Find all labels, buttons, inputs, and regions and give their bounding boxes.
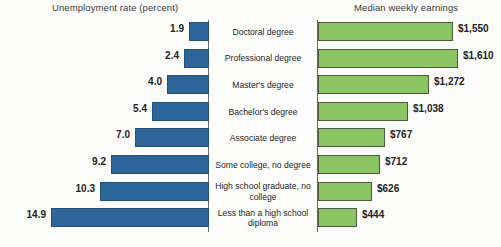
earnings-value-label: $1,550 (458, 23, 489, 34)
unemployment-bar (167, 75, 209, 94)
unemployment-bar (51, 208, 209, 227)
unemployment-value-label: 14.9 (27, 209, 46, 220)
earnings-bar (318, 49, 458, 68)
unemployment-bar (100, 182, 209, 201)
unemployment-value-label: 4.0 (148, 76, 162, 87)
earnings-value-label: $1,038 (413, 103, 444, 114)
earnings-bar (318, 208, 357, 227)
earnings-bar (318, 128, 385, 147)
earnings-bar (318, 182, 372, 201)
unemployment-value-label: 5.4 (133, 103, 147, 114)
category-label: Doctoral degree (213, 19, 313, 45)
earnings-value-label: $712 (385, 156, 407, 167)
chart-row: 10.3High school graduate, no college$626 (0, 179, 501, 205)
earnings-bar (318, 155, 380, 174)
earnings-value-label: $1,272 (434, 76, 465, 87)
category-label: Some college, no degree (213, 152, 313, 178)
category-label: Bachelor's degree (213, 99, 313, 125)
earnings-value-label: $767 (390, 129, 412, 140)
unemployment-value-label: 10.3 (76, 183, 95, 194)
right-panel-title: Median weekly earnings (354, 2, 458, 13)
chart-row: 9.2Some college, no degree$712 (0, 152, 501, 178)
unemployment-value-label: 2.4 (165, 50, 179, 61)
category-label: Master's degree (213, 72, 313, 98)
earnings-bar (318, 75, 429, 94)
earnings-bar (318, 22, 453, 41)
unemployment-bar (152, 102, 209, 121)
chart-row: 5.4Bachelor's degree$1,038 (0, 99, 501, 125)
unemployment-bar (111, 155, 209, 174)
chart-row: 14.9Less than a high school diploma$444 (0, 205, 501, 231)
earnings-value-label: $444 (362, 209, 384, 220)
left-panel-title: Unemployment rate (percent) (52, 2, 178, 13)
earnings-bar (318, 102, 408, 121)
chart-row: 2.4Professional degree$1,610 (0, 46, 501, 72)
unemployment-bar (189, 22, 209, 41)
chart-row: 7.0Associate degree$767 (0, 125, 501, 151)
earnings-value-label: $626 (377, 183, 399, 194)
earnings-value-label: $1,610 (463, 50, 494, 61)
category-label: Associate degree (213, 125, 313, 151)
unemployment-value-label: 9.2 (92, 156, 106, 167)
unemployment-value-label: 1.9 (170, 23, 184, 34)
chart-row: 1.9Doctoral degree$1,550 (0, 19, 501, 45)
unemployment-bar (135, 128, 209, 147)
education-pays-chart: Unemployment rate (percent) Median weekl… (0, 0, 501, 247)
unemployment-value-label: 7.0 (116, 129, 130, 140)
chart-row: 4.0Master's degree$1,272 (0, 72, 501, 98)
unemployment-bar (184, 49, 209, 68)
category-label: Less than a high school diploma (213, 205, 313, 231)
category-label: High school graduate, no college (213, 179, 313, 205)
category-label: Professional degree (213, 46, 313, 72)
